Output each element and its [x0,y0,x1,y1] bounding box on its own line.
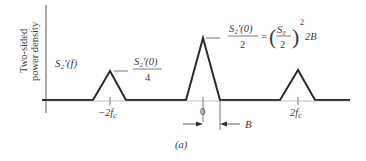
y-axis-label-1: Two-sided [18,28,29,73]
side-peak-numerator: S₂′(0) [134,56,158,68]
factor-2b: 2B [305,31,317,42]
exponent: 2 [300,18,304,27]
svg-text:): ) [292,24,299,49]
y-axis-label-2: power density [29,21,40,81]
bandwidth-label: B [245,118,252,130]
svg-text:(: ( [269,24,276,49]
s0-numerator: S₀ [277,24,286,35]
spectrum-curve [42,38,350,100]
side-peak-denominator: 4 [145,72,151,83]
curve-label: S₂′(f) [55,57,77,70]
s0-denominator: 2 [280,39,285,50]
equals-sign: = [261,30,267,42]
figure-caption: (a) [175,139,188,151]
arrow-left-icon [220,122,227,127]
arrow-right-icon [196,122,203,127]
power-density-diagram: B Two-sided power density S₂′(f) S₂′(0) … [0,0,366,161]
tick-label-2fc: 2fc [290,107,302,120]
center-peak-numerator: S₂′(0) [229,23,253,35]
tick-label-neg-2fc: −2fc [98,107,117,120]
center-peak-denominator: 2 [240,39,245,50]
tick-label-zero: 0 [200,106,205,117]
